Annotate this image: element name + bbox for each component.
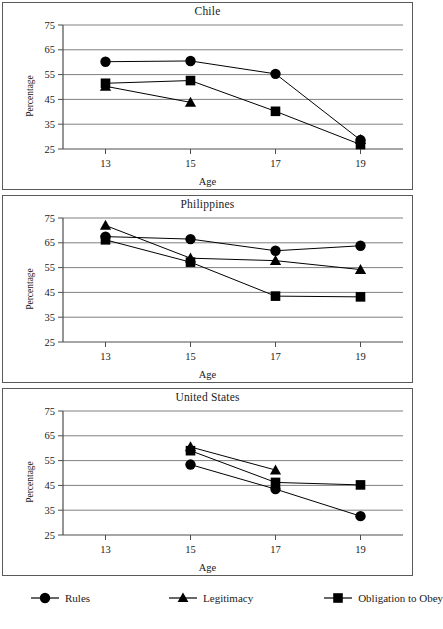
svg-text:15: 15 xyxy=(185,351,196,362)
svg-text:19: 19 xyxy=(355,351,366,362)
svg-text:25: 25 xyxy=(45,530,56,541)
svg-text:15: 15 xyxy=(185,158,196,169)
legend-label: Legitimacy xyxy=(203,591,253,605)
svg-text:65: 65 xyxy=(45,430,56,441)
svg-text:35: 35 xyxy=(45,312,56,323)
x-axis-label: Age xyxy=(3,176,412,187)
chart-legend: Rules Legitimacy Obligation to Obey xyxy=(2,581,413,615)
svg-text:17: 17 xyxy=(270,158,281,169)
svg-text:13: 13 xyxy=(100,158,111,169)
plot-area: 75655545352513151719 xyxy=(3,3,414,189)
svg-text:19: 19 xyxy=(355,544,366,555)
svg-text:75: 75 xyxy=(45,213,56,224)
square-marker-icon xyxy=(323,591,353,605)
svg-text:15: 15 xyxy=(185,544,196,555)
triangle-marker-icon xyxy=(168,591,198,605)
svg-text:13: 13 xyxy=(100,351,111,362)
svg-text:65: 65 xyxy=(45,44,56,55)
svg-text:55: 55 xyxy=(45,455,56,466)
x-axis-label: Age xyxy=(3,369,412,380)
svg-text:55: 55 xyxy=(45,69,56,80)
chart-panel-chile: Chile Percentage 75655545352513151719 Ag… xyxy=(2,2,413,190)
x-axis-label: Age xyxy=(3,562,412,573)
legend-label: Obligation to Obey xyxy=(358,591,443,605)
svg-text:75: 75 xyxy=(45,406,56,417)
chart-panel-united-states: United States Percentage 756555453525131… xyxy=(2,388,413,576)
svg-text:17: 17 xyxy=(270,544,281,555)
svg-text:75: 75 xyxy=(45,20,56,31)
svg-text:17: 17 xyxy=(270,351,281,362)
circle-marker-icon xyxy=(30,591,60,605)
chart-panel-philippines: Philippines Percentage 75655545352513151… xyxy=(2,195,413,383)
svg-text:55: 55 xyxy=(45,262,56,273)
plot-area: 75655545352513151719 xyxy=(3,196,414,382)
legend-item-legitimacy: Legitimacy xyxy=(168,591,253,605)
svg-text:35: 35 xyxy=(45,505,56,516)
svg-text:65: 65 xyxy=(45,237,56,248)
svg-text:25: 25 xyxy=(45,337,56,348)
svg-text:25: 25 xyxy=(45,144,56,155)
legend-label: Rules xyxy=(65,591,90,605)
legend-item-obligation-to-obey: Obligation to Obey xyxy=(323,591,443,605)
svg-text:45: 45 xyxy=(45,287,56,298)
plot-area: 75655545352513151719 xyxy=(3,389,414,575)
svg-text:45: 45 xyxy=(45,480,56,491)
legend-item-rules: Rules xyxy=(30,591,90,605)
svg-text:19: 19 xyxy=(355,158,366,169)
svg-text:45: 45 xyxy=(45,94,56,105)
svg-text:13: 13 xyxy=(100,544,111,555)
svg-text:35: 35 xyxy=(45,119,56,130)
